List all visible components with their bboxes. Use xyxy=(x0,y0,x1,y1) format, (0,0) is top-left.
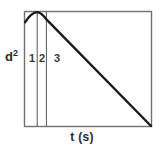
plot-frame xyxy=(25,12,152,127)
x-axis-label: t (s) xyxy=(0,131,164,143)
y-axis-label: d2 xyxy=(5,50,18,63)
region-label-2: 2 xyxy=(39,53,45,64)
chart-screenshot: d2 t (s) 1 2 3 xyxy=(0,0,164,149)
plot-figure xyxy=(0,0,164,149)
region-label-1: 1 xyxy=(29,53,35,64)
region-label-3: 3 xyxy=(54,53,60,64)
y-axis-label-exponent: 2 xyxy=(13,48,18,58)
y-axis-label-base: d xyxy=(5,49,13,64)
